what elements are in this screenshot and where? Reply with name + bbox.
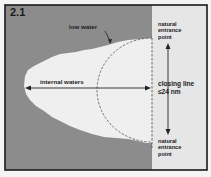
label-line: entrance bbox=[158, 27, 181, 33]
label-line: point bbox=[158, 151, 181, 157]
label-line: point bbox=[158, 34, 181, 40]
closing-line-label: closing line ≤24 nm bbox=[158, 80, 194, 96]
closing-limit-text: ≤24 nm bbox=[158, 88, 194, 96]
natural-entrance-point-top-label: natural entrance point bbox=[158, 21, 181, 40]
label-line: entrance bbox=[158, 144, 181, 150]
figure-number: 2.1 bbox=[10, 6, 25, 18]
internal-waters-label: internal waters bbox=[40, 78, 84, 85]
natural-entrance-point-bottom-label: natural entrance point bbox=[158, 138, 181, 157]
diagram-internal-waters: 2.1 low water internal waters natural en… bbox=[0, 0, 211, 177]
low-water-label: low water bbox=[69, 23, 97, 30]
closing-line-text: closing line bbox=[158, 80, 194, 88]
